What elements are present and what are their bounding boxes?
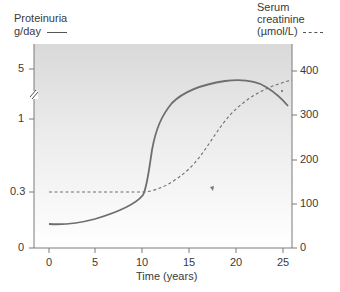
left-tick-5: 5 (18, 62, 24, 74)
x-axis-title: Time (years) (136, 270, 197, 282)
x-tick-5: 5 (92, 256, 98, 268)
axis-break-icon (30, 90, 38, 99)
chart-canvas (0, 0, 340, 292)
right-tick-400: 400 (300, 64, 318, 76)
scan-artifact-dot (281, 90, 283, 92)
x-tick-10: 10 (136, 256, 148, 268)
x-tick-15: 15 (183, 256, 195, 268)
x-axis (34, 248, 292, 253)
plot-area (34, 44, 292, 248)
left-tick-1: 1 (18, 112, 24, 124)
right-axis (292, 44, 297, 248)
right-tick-200: 200 (300, 153, 318, 165)
left-axis (29, 44, 34, 248)
right-tick-300: 300 (300, 108, 318, 120)
left-tick-0: 0 (18, 241, 24, 253)
left-tick-0.3: 0.3 (10, 185, 25, 197)
x-tick-0: 0 (46, 256, 52, 268)
x-tick-20: 20 (230, 256, 242, 268)
x-tick-25: 25 (277, 256, 289, 268)
right-tick-100: 100 (300, 197, 318, 209)
right-tick-0: 0 (300, 241, 306, 253)
